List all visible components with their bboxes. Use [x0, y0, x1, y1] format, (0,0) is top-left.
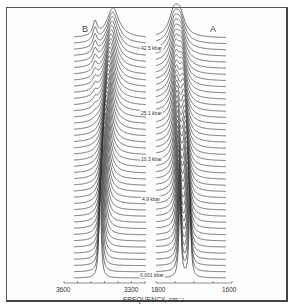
x-tick-label: 3600	[56, 286, 70, 293]
x-tick-label: 3300	[124, 286, 138, 293]
pressure-label: 42.5 kbar	[140, 45, 163, 51]
x-tick-label: 1800	[151, 286, 165, 293]
spectrum-trace	[156, 75, 226, 124]
panel-label-b: B	[82, 24, 88, 34]
x-axis-title: FREQUENCY, cm⁻¹	[123, 296, 184, 304]
panel-label-a: A	[210, 24, 216, 34]
pressure-label: 10.3 kbar	[140, 156, 163, 162]
pressure-label: 4.9 kbar	[141, 196, 161, 202]
pressure-label: 0.001 kbar	[139, 272, 165, 278]
x-axis	[64, 281, 232, 283]
x-tick-label: 1600	[222, 286, 236, 293]
pressure-label: 25.1 kbar	[140, 110, 163, 116]
